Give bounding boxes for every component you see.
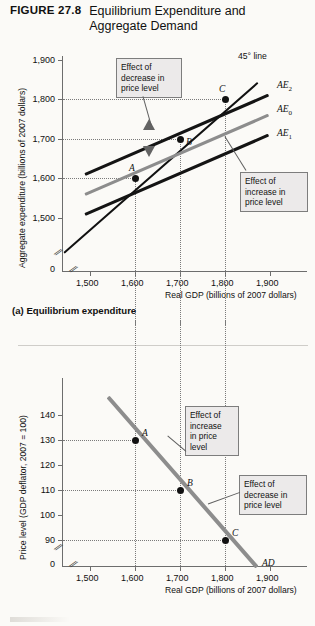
panel-a-x-axis-break: ⁄⁄ [70, 263, 78, 276]
panel-a-point-c [222, 96, 229, 103]
panel-b-ytick-120 [58, 465, 62, 466]
page-edge-artifact [10, 617, 70, 622]
callout-line4: level [190, 442, 234, 453]
panel-b-zero-label: 0 [50, 559, 55, 569]
callout-line3: price level [244, 500, 302, 511]
panel-a-gridline-x1600 [135, 178, 136, 325]
callout-line3: price level [245, 197, 303, 208]
panel-b-gridline-x1600 [135, 320, 136, 568]
panel-b-ytick-90 [58, 540, 62, 541]
panel-a-ylabel-1700: 1,700 [24, 134, 55, 144]
panel-a-caption: (a) Equilibrium expenditure [12, 305, 136, 316]
panel-a-ylabel-1600: 1,600 [24, 173, 55, 183]
panel-a-45-degree-line [63, 82, 258, 254]
panel-b-callout-increase-leader [167, 436, 186, 452]
callout-line2: decrease in [121, 73, 177, 84]
callout-line3: in price [190, 431, 234, 442]
panel-b-point-b [177, 487, 184, 494]
panel-b-ytick-130 [58, 440, 62, 441]
callout-line1: Effect of [245, 176, 303, 187]
panel-b-point-a-label: A [142, 428, 148, 438]
panel-b-ytick-140 [58, 415, 62, 416]
panel-a-xtick-1500 [90, 272, 91, 276]
panel-a-ytick-1900 [58, 60, 62, 61]
panel-a-45-degree-label: 45° line [238, 51, 267, 61]
panel-a-xlabel-1500: 1,500 [76, 278, 99, 288]
callout-line1: Effect of [244, 479, 302, 490]
panel-a-point-a [132, 175, 139, 182]
panel-a-equilibrium-expenditure: Aggregate expenditure (billions of 2007 … [0, 0, 315, 325]
panel-a-ytick-1600 [58, 178, 62, 179]
panel-b-point-b-label: B [187, 478, 193, 488]
callout-line1: Effect of [190, 410, 234, 421]
panel-a-point-b-label: B [186, 137, 192, 147]
panel-b-xtick-1500 [90, 567, 91, 571]
panel-b-aggregate-demand: Price level (GDP deflator, 2007 = 100) ⁄… [0, 345, 315, 626]
panel-b-point-c-label: C [232, 528, 238, 538]
panel-b-ylabel-90: 90 [26, 535, 55, 545]
panel-a-ytick-1700 [58, 139, 62, 140]
panel-b-gridline-90 [63, 540, 225, 541]
panel-a-y-axis [62, 56, 63, 272]
panel-b-xlabel-1500: 1,500 [76, 573, 99, 583]
panel-a-x-axis-title: Real GDP (billions of 2007 dollars) [165, 290, 297, 300]
callout-line2: increase [190, 421, 234, 432]
panel-b-gridline-x1700 [180, 320, 181, 568]
panel-a-xtick-1900 [270, 272, 271, 276]
panel-a-point-c-label: C [219, 84, 225, 94]
panel-b-point-c [222, 537, 229, 544]
panel-a-ae0-label: AE0 [277, 104, 292, 117]
panel-a-gridline-x1700 [180, 139, 181, 325]
panel-b-x-axis-title: Real GDP (billions of 2007 dollars) [165, 585, 297, 595]
panel-b-ytick-100 [58, 515, 62, 516]
panel-a-zero-label: 0 [50, 264, 55, 274]
panel-b-xlabel-1800: 1,800 [211, 573, 234, 583]
panel-a-ylabel-1500: 1,500 [24, 213, 55, 223]
panel-b-gridline-130 [63, 440, 135, 441]
panel-a-ylabel-1900: 1,900 [24, 55, 55, 65]
figure-container: FIGURE 27.8 Equilibrium Expenditure and … [0, 0, 315, 626]
panel-a-xlabel-1600: 1,600 [121, 278, 144, 288]
panel-b-xlabel-1700: 1,700 [166, 573, 189, 583]
panel-a-point-a-label: A [129, 163, 135, 173]
panel-a-down-arrow-icon [143, 146, 155, 157]
panel-a-xlabel-1800: 1,800 [211, 278, 234, 288]
panel-b-y-axis [62, 378, 63, 567]
panel-b-ad-label: AD [262, 558, 275, 568]
panel-b-callout-effect-decrease: Effect of decrease in price level [239, 475, 307, 515]
panel-b-callout-effect-increase: Effect of increase in price level [185, 406, 239, 456]
panel-a-ae1-label: AE1 [277, 128, 292, 141]
callout-line2: decrease in [244, 490, 302, 501]
panel-b-ytick-110 [58, 490, 62, 491]
panel-a-callout-effect-decrease: Effect of decrease in price level [116, 58, 182, 98]
panel-b-gridline-110 [63, 490, 180, 491]
panel-b-xlabel-1900: 1,900 [256, 573, 279, 583]
callout-line3: price level [121, 83, 177, 94]
panel-a-ytick-1500 [58, 218, 62, 219]
panel-a-ylabel-1800: 1,800 [24, 94, 55, 104]
panel-b-x-axis-break: ⁄⁄ [70, 558, 78, 571]
panel-b-ylabel-110: 110 [26, 485, 55, 495]
panel-b-ylabel-130: 130 [26, 435, 55, 445]
panel-a-callout-effect-increase: Effect of increase in price level [240, 172, 308, 212]
panel-a-ae2-label: AE2 [277, 80, 292, 93]
callout-line2: increase in [245, 187, 303, 198]
callout-line1: Effect of [121, 62, 177, 73]
panel-a-ytick-1800 [58, 99, 62, 100]
panel-a-xlabel-1900: 1,900 [256, 278, 279, 288]
panel-b-ylabel-120: 120 [26, 460, 55, 470]
panel-a-xlabel-1700: 1,700 [166, 278, 189, 288]
panel-a-point-b [177, 136, 184, 143]
panel-b-xlabel-1600: 1,600 [121, 573, 144, 583]
panel-b-ylabel-140: 140 [26, 410, 55, 420]
panel-b-ylabel-100: 100 [26, 510, 55, 520]
panel-b-point-a [132, 437, 139, 444]
